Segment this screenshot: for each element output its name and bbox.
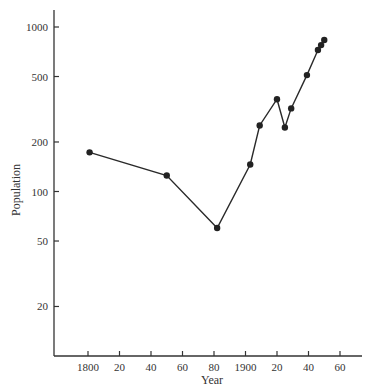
y-tick-label: 50 bbox=[37, 235, 49, 247]
data-point bbox=[304, 72, 310, 78]
x-axis: 1800204060801900204060 bbox=[54, 351, 362, 373]
y-tick-label: 200 bbox=[32, 136, 49, 148]
data-point bbox=[321, 37, 327, 43]
x-tick-label: 1900 bbox=[235, 361, 258, 373]
data-point bbox=[282, 124, 288, 130]
x-tick-label: 40 bbox=[303, 361, 315, 373]
x-tick-label: 20 bbox=[272, 361, 284, 373]
data-series bbox=[86, 37, 327, 231]
y-tick-label: 1000 bbox=[26, 21, 49, 33]
x-tick-label: 60 bbox=[177, 361, 189, 373]
x-tick-label: 60 bbox=[335, 361, 347, 373]
x-tick-label: 80 bbox=[209, 361, 221, 373]
x-axis-title: Year bbox=[201, 373, 223, 387]
data-point bbox=[288, 105, 294, 111]
x-tick-label: 40 bbox=[146, 361, 158, 373]
series-line bbox=[90, 40, 325, 228]
data-point bbox=[164, 172, 170, 178]
y-axis-title: Population bbox=[9, 164, 23, 216]
x-tick-label: 1800 bbox=[77, 361, 100, 373]
data-point bbox=[256, 122, 262, 128]
data-point bbox=[274, 96, 280, 102]
y-axis: 10005002001005020 bbox=[26, 10, 59, 356]
y-tick-label: 20 bbox=[37, 300, 49, 312]
data-point bbox=[86, 149, 92, 155]
data-point bbox=[247, 161, 253, 167]
x-tick-label: 20 bbox=[114, 361, 126, 373]
data-point bbox=[214, 225, 220, 231]
y-tick-label: 500 bbox=[32, 71, 49, 83]
line-chart: 10005002001005020 1800204060801900204060… bbox=[0, 0, 370, 390]
y-tick-label: 100 bbox=[32, 186, 49, 198]
